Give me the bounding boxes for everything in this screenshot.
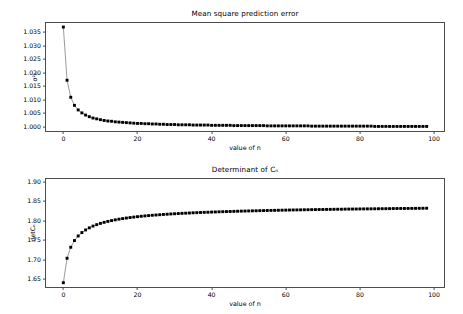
y-tick-mark [43,86,45,87]
data-series-determinant [45,178,445,288]
subplot-mean-square-prediction-error: Mean square prediction error 1.0001.0051… [45,22,445,132]
x-tick-mark [211,288,212,290]
y-tick-mark [43,260,45,261]
x-tick-mark [137,132,138,134]
y-tick-mark [43,113,45,114]
x-tick-label: 100 [428,136,440,142]
x-tick-label: 60 [282,136,290,142]
x-tick-mark [434,132,435,134]
x-tick-mark [285,288,286,290]
x-tick-label: 0 [61,292,65,298]
y-axis-label-bottom: detCₙ [29,216,36,250]
y-tick-label: 1.65 [27,276,41,282]
y-axis-label-top: σ²ₙ [31,62,38,92]
x-tick-mark [211,132,212,134]
y-tick-mark [43,32,45,33]
x-tick-mark [137,288,138,290]
x-tick-label: 40 [208,136,216,142]
x-tick-mark [360,288,361,290]
y-tick-mark [43,100,45,101]
plot-title-bottom: Determinant of Cₙ [45,165,445,174]
y-tick-label: 1.035 [23,29,41,35]
data-series-mspe [45,22,445,132]
y-tick-mark [43,240,45,241]
y-tick-mark [43,220,45,221]
y-tick-label: 1.85 [27,198,41,204]
matplotlib-figure: Mean square prediction error 1.0001.0051… [0,0,463,314]
x-tick-label: 0 [61,136,65,142]
subplot-determinant-of-cn: Determinant of Cₙ 1.651.701.751.801.851.… [45,178,445,288]
y-tick-label: 1.90 [27,179,41,185]
x-tick-label: 80 [356,136,364,142]
x-tick-mark [434,288,435,290]
x-tick-label: 40 [208,292,216,298]
y-tick-mark [43,46,45,47]
x-axis-label-bottom: value of n [45,300,445,308]
x-axis-label-top: value of n [45,144,445,152]
y-tick-mark [43,127,45,128]
x-tick-mark [360,132,361,134]
x-tick-label: 20 [134,136,142,142]
y-tick-label: 1.70 [27,257,41,263]
y-tick-label: 1.005 [23,110,41,116]
y-tick-mark [43,181,45,182]
y-tick-mark [43,73,45,74]
y-tick-label: 1.010 [23,97,41,103]
x-tick-mark [63,288,64,290]
y-tick-label: 1.030 [23,43,41,49]
x-tick-label: 20 [134,292,142,298]
y-tick-mark [43,201,45,202]
y-tick-label: 1.000 [23,124,41,130]
x-tick-mark [285,132,286,134]
x-tick-mark [63,132,64,134]
x-tick-label: 100 [428,292,440,298]
y-tick-mark [43,279,45,280]
plot-title-top: Mean square prediction error [45,9,445,18]
x-tick-label: 60 [282,292,290,298]
y-tick-mark [43,59,45,60]
x-tick-label: 80 [356,292,364,298]
